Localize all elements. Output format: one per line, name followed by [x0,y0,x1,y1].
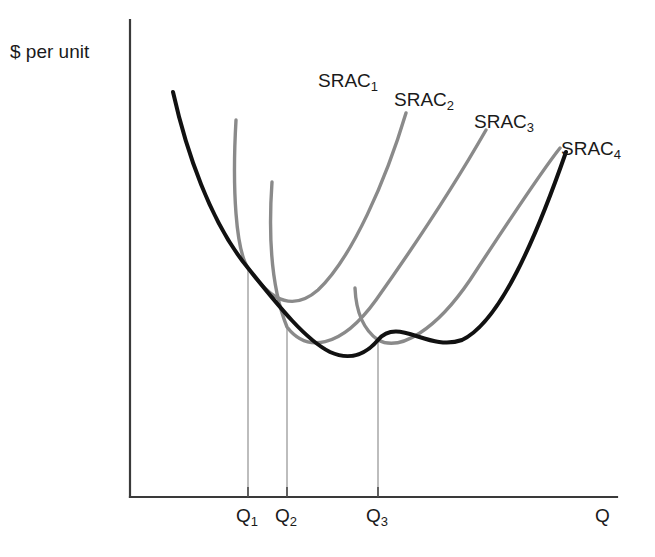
curve-label-srac4-subscript: 4 [614,147,621,162]
y-axis-title: $ per unit [10,41,89,63]
curve-label-srac4-base: SRAC [561,138,614,159]
curve-label-srac1-subscript: 1 [371,79,378,94]
xtick-label-q1-subscript: 1 [251,514,258,529]
curve-label-srac2-base: SRAC [394,89,447,110]
x-axis-title: Q [595,505,610,527]
curve-label-srac3-subscript: 3 [527,120,534,135]
curve-label-srac3: SRAC3 [474,111,534,133]
xtick-label-q1-base: Q [236,505,251,526]
xtick-label-q2: Q2 [275,505,297,527]
curve-srac1 [235,113,407,301]
curve-srac2 [271,130,486,343]
cost-curve-figure: $ per unit SRAC1 SRAC2 SRAC3 SRAC4 Q1 Q2… [0,0,655,557]
curve-label-srac1-base: SRAC [318,70,371,91]
curve-label-srac2-subscript: 2 [447,98,454,113]
xtick-label-q3-subscript: 3 [381,514,388,529]
xtick-label-q2-subscript: 2 [290,514,297,529]
curve-label-srac2: SRAC2 [394,89,454,111]
xtick-label-q3: Q3 [366,505,388,527]
xtick-label-q3-base: Q [366,505,381,526]
curve-label-srac4: SRAC4 [561,138,621,160]
xtick-label-q1: Q1 [236,505,258,527]
xtick-label-q2-base: Q [275,505,290,526]
curve-label-srac1: SRAC1 [318,70,378,92]
curve-label-srac3-base: SRAC [474,111,527,132]
